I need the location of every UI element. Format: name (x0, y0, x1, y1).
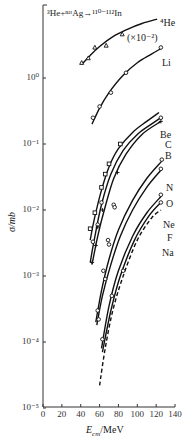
x-tick-label: 60 (95, 410, 104, 419)
circle-marker (107, 243, 111, 247)
curve-na (100, 210, 161, 385)
circle-marker (124, 71, 128, 75)
circle-marker (101, 337, 105, 341)
curves (82, 19, 162, 385)
circle-marker (159, 201, 163, 205)
y-tick-label: 10⁻² (3, 205, 39, 214)
series-label: Na (162, 248, 174, 258)
x-tick-label: 120 (149, 410, 163, 419)
y-tick-label: 10⁻¹ (3, 139, 39, 148)
y-tick-label: 10⁻³ (3, 271, 39, 280)
y-tick-label: 10⁻⁴ (3, 337, 39, 346)
x-tick-label: 100 (131, 410, 145, 419)
data-markers (80, 32, 164, 341)
y-axis-label: σ/mb (6, 212, 17, 232)
circle-marker (159, 167, 163, 171)
series-label: ⁴He (160, 18, 175, 28)
series-label: O (166, 199, 173, 209)
circle-marker (113, 205, 117, 209)
series-label: Ne (163, 220, 175, 230)
x-tick-label: 40 (76, 410, 85, 419)
square-marker (100, 186, 104, 190)
square-marker (88, 227, 92, 231)
circle-marker (109, 91, 113, 95)
curve-li (92, 49, 161, 125)
triangle-marker (104, 43, 108, 47)
square-marker (107, 162, 111, 166)
circle-marker (121, 269, 125, 273)
triangle-marker (80, 61, 84, 65)
y-tick-label: 10⁰ (3, 73, 39, 82)
circle-marker (102, 269, 106, 273)
circle-marker (159, 46, 163, 50)
curve-o (97, 170, 161, 325)
circle-marker (160, 158, 164, 162)
circle-marker (103, 277, 107, 281)
series-label: Li (162, 58, 171, 68)
circle-marker (91, 240, 95, 244)
circle-marker (97, 318, 101, 322)
triangle-marker (93, 45, 97, 49)
y-tick-label: 10⁻⁵ (3, 403, 39, 412)
chart-title: ³He+ⁿᵃᵗAg→¹¹⁰⁻¹¹²In (47, 8, 122, 18)
circle-marker (110, 294, 114, 298)
curve-ne (102, 197, 161, 349)
x-tick-label: 80 (114, 410, 123, 419)
series-label: B (165, 151, 172, 161)
square-marker (103, 172, 107, 176)
x-axis-label: Ecm/MeV (86, 424, 124, 438)
curve-n (96, 161, 162, 322)
plus-marker (94, 243, 98, 247)
axes (43, 5, 175, 408)
cross-section-chart (0, 0, 186, 441)
curve-b (92, 121, 161, 264)
series-label: F (167, 233, 173, 243)
curve-f (102, 203, 160, 353)
square-marker (119, 142, 123, 146)
circle-marker (96, 309, 100, 313)
circle-marker (91, 116, 95, 120)
series-label: (×10⁻²) (127, 33, 158, 43)
x-tick-label: 140 (168, 410, 182, 419)
x-tick-label: 0 (41, 410, 46, 419)
circle-marker (106, 238, 110, 242)
circle-marker (159, 193, 163, 197)
series-label: C (165, 140, 172, 150)
square-marker (93, 211, 97, 215)
x-tick-label: 20 (57, 410, 66, 419)
circle-marker (98, 105, 102, 109)
circle-marker (100, 201, 104, 205)
circle-marker (159, 116, 163, 120)
series-label: N (166, 183, 173, 193)
